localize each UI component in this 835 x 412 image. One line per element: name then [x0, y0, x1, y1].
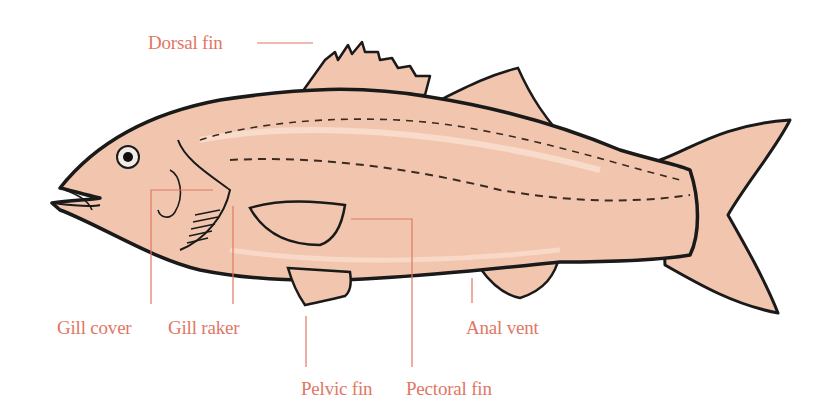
label-dorsal-fin: Dorsal fin	[148, 33, 223, 52]
label-gill-cover: Gill cover	[57, 318, 132, 337]
spiny-dorsal-fin	[300, 42, 430, 95]
label-pelvic-fin: Pelvic fin	[301, 379, 372, 398]
fish-anatomy-diagram: Dorsal fin Gill cover Gill raker Anal ve…	[0, 0, 835, 412]
label-gill-raker: Gill raker	[168, 318, 239, 337]
fish-body	[52, 89, 698, 280]
pelvic-fin-shape	[288, 268, 351, 305]
fish-illustration	[0, 0, 835, 412]
label-pectoral-fin: Pectoral fin	[406, 379, 492, 398]
label-anal-vent: Anal vent	[466, 318, 539, 337]
